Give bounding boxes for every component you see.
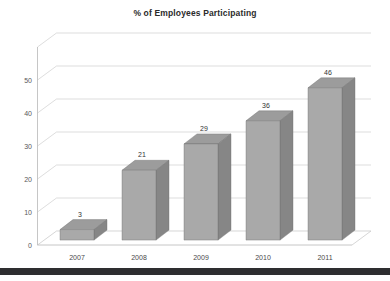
y-tick-30: 30 <box>24 143 32 150</box>
bar-2009-front <box>184 144 218 240</box>
data-label-2010: 36 <box>262 102 270 109</box>
x-tick-2009: 2009 <box>193 254 209 261</box>
x-axis-tick-labels: 2007 2008 2009 2010 2011 <box>69 254 332 261</box>
bar-2009-side <box>218 134 231 240</box>
y-tick-50: 50 <box>24 77 32 84</box>
y-tick-40: 40 <box>24 110 32 117</box>
floor-right-diagonal <box>352 231 371 245</box>
x-tick-2010: 2010 <box>255 254 271 261</box>
bar-2011[interactable] <box>308 78 355 240</box>
bottom-margin <box>0 275 390 281</box>
data-label-2007: 3 <box>78 211 82 218</box>
y-tick-0: 0 <box>28 242 32 249</box>
chart-container: % of Employees Participating <box>0 0 390 281</box>
bar-2007[interactable] <box>60 220 107 241</box>
data-label-2011: 46 <box>324 69 332 76</box>
bar-2007-front <box>60 230 94 241</box>
bar-2010[interactable] <box>246 111 293 240</box>
bar-2008[interactable] <box>122 160 169 240</box>
data-label-2009: 29 <box>200 125 208 132</box>
bar-2011-front <box>308 88 342 240</box>
y-tick-10: 10 <box>24 209 32 216</box>
bar-2010-front <box>246 121 280 240</box>
bar-2010-side <box>280 111 293 240</box>
bar-2008-side <box>156 160 169 240</box>
chart-plot-area: 0 10 20 30 40 50 <box>0 0 390 281</box>
y-axis-tick-labels: 0 10 20 30 40 50 <box>24 77 32 249</box>
floor-left-diagonal <box>38 231 57 245</box>
data-label-2008: 21 <box>138 151 146 158</box>
x-tick-2008: 2008 <box>131 254 147 261</box>
bar-2011-side <box>342 78 355 240</box>
bar-2008-front <box>122 170 156 240</box>
x-tick-2011: 2011 <box>317 254 332 261</box>
x-tick-2007: 2007 <box>69 254 85 261</box>
bottom-divider-band <box>0 268 390 275</box>
y-tick-20: 20 <box>24 176 32 183</box>
bar-2009[interactable] <box>184 134 231 240</box>
gridline-top-cap <box>38 33 372 47</box>
